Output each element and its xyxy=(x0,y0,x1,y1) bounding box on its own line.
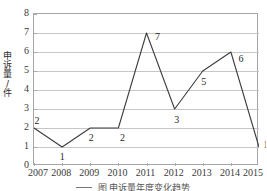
x-tick-label: 2009 xyxy=(79,167,99,178)
figure-caption: 图 申诉量年度变化趋势 xyxy=(0,183,266,191)
x-tick-label: 2013 xyxy=(192,167,212,178)
line-chart: 申 诉 量 / 件 012345678 20072008200920102011… xyxy=(0,0,266,191)
gridlines xyxy=(34,34,259,148)
x-tick-label: 2007 xyxy=(28,167,48,178)
y-tick-label: 7 xyxy=(14,27,29,37)
y-tick-label: 0 xyxy=(14,160,29,170)
y-tick-label: 4 xyxy=(14,84,29,94)
x-axis-tick-marks xyxy=(35,163,260,166)
data-point-label: 2 xyxy=(35,116,40,126)
data-point-label: 5 xyxy=(201,77,206,87)
y-axis-tick-labels: 012345678 xyxy=(14,0,29,191)
y-tick-label: 2 xyxy=(14,122,29,132)
x-axis-tick-labels: 200720082009201020112012201320142015 xyxy=(33,167,258,181)
data-point-label: 1 xyxy=(264,140,267,150)
data-point-label: 2 xyxy=(120,133,125,143)
data-point-label: 6 xyxy=(238,54,243,64)
y-tick-label: 5 xyxy=(14,65,29,75)
x-tick-label: 2010 xyxy=(107,167,127,178)
y-axis-tick-marks xyxy=(34,15,37,167)
y-tick-label: 8 xyxy=(14,8,29,18)
caption-text: 图 申诉量年度变化趋势 xyxy=(98,183,191,191)
caption-dash xyxy=(76,187,92,188)
plot-svg xyxy=(34,14,259,166)
plot-area xyxy=(33,13,258,165)
x-tick-label: 2015 xyxy=(243,167,263,178)
data-series-line xyxy=(34,33,259,147)
x-tick-label: 2008 xyxy=(51,167,71,178)
x-tick-label: 2012 xyxy=(164,167,184,178)
y-axis-title: 申 诉 量 / 件 xyxy=(1,52,14,98)
data-point-label: 1 xyxy=(60,152,65,162)
x-tick-label: 2011 xyxy=(136,167,156,178)
y-tick-label: 1 xyxy=(14,141,29,151)
y-tick-label: 6 xyxy=(14,46,29,56)
data-point-label: 2 xyxy=(89,133,94,143)
data-point-label: 3 xyxy=(174,115,179,125)
data-point-label: 7 xyxy=(155,32,160,42)
y-tick-label: 3 xyxy=(14,103,29,113)
x-tick-label: 2014 xyxy=(220,167,240,178)
